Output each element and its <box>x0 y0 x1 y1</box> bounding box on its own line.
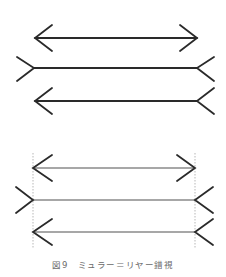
top-line-2-fins-out <box>17 57 214 81</box>
top-panel <box>17 25 214 114</box>
bottom-panel <box>16 153 213 248</box>
bottom-shafts <box>33 168 195 232</box>
top-line-1-double-arrow <box>35 25 197 51</box>
muller-lyer-figure <box>0 0 226 277</box>
figure-caption: 図9 ミュラー＝リヤー錯視 <box>0 258 226 270</box>
top-line-3-mixed <box>35 88 214 114</box>
